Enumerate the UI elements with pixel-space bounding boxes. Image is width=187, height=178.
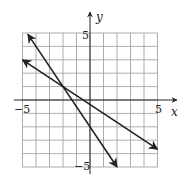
y-axis-label: y xyxy=(96,11,103,23)
y-tick-min-label: −5 xyxy=(74,161,90,172)
axes xyxy=(14,12,177,174)
x-tick-max-label: 5 xyxy=(155,104,162,115)
x-axis-label: x xyxy=(171,106,178,118)
y-tick-max-label: 5 xyxy=(82,30,89,41)
x-tick-min-label: −5 xyxy=(14,104,30,115)
coordinate-plane xyxy=(0,0,187,178)
